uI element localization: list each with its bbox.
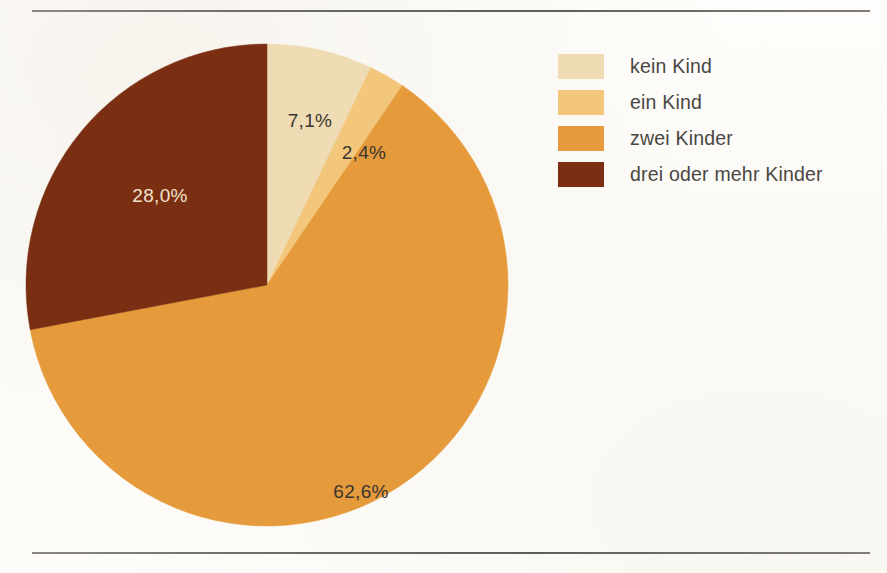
pie-chart-area: 7,1%2,4%62,6%28,0% [24,42,510,528]
legend-color-swatch [558,90,604,115]
pie-slice-value-label: 7,1% [288,110,333,131]
legend-item-label: ein Kind [630,91,702,114]
pie-slice-value-label: 62,6% [333,481,388,502]
legend-item-label: zwei Kinder [630,127,733,150]
bottom-divider-rule [32,552,870,554]
legend-color-swatch [558,126,604,151]
legend-item-label: drei oder mehr Kinder [630,163,823,186]
pie-chart-svg: 7,1%2,4%62,6%28,0% [24,42,510,528]
legend-row: ein Kind [558,84,868,120]
legend-color-swatch [558,162,604,187]
pie-chart-figure: 7,1%2,4%62,6%28,0% kein Kindein Kindzwei… [0,0,887,573]
pie-slice-group [26,44,508,526]
legend-color-swatch [558,54,604,79]
legend-row: kein Kind [558,48,868,84]
legend-row: drei oder mehr Kinder [558,156,868,192]
chart-legend: kein Kindein Kindzwei Kinderdrei oder me… [558,48,868,192]
top-divider-rule [32,10,870,12]
legend-row: zwei Kinder [558,120,868,156]
legend-item-label: kein Kind [630,55,712,78]
pie-slice-value-label: 28,0% [132,185,187,206]
pie-slice-value-label: 2,4% [342,142,387,163]
